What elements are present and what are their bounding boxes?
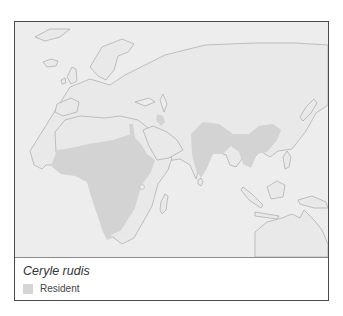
legend-label: Resident (40, 283, 79, 294)
range-map (15, 22, 328, 258)
world-map-graphic (15, 22, 328, 257)
legend: Ceryle rudis Resident (15, 258, 328, 300)
resident-swatch (23, 284, 33, 294)
species-name: Ceryle rudis (23, 264, 90, 278)
legend-item-resident: Resident (23, 283, 79, 294)
map-frame: Ceryle rudis Resident (14, 21, 329, 301)
